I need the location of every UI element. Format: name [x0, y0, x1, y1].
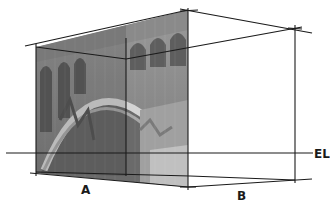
bridge-photo [30, 0, 195, 200]
label-eye-level: EL [314, 147, 330, 161]
label-a: A [81, 183, 91, 197]
label-b: B [237, 189, 246, 203]
perspective-diagram: A B EL [0, 0, 330, 210]
